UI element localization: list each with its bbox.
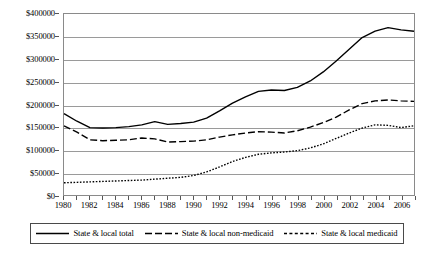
x-tick-label: 1998 [289,201,306,210]
x-tick-label: 2004 [368,201,385,210]
series-line-solid [64,28,414,128]
y-tick-mark [55,59,59,60]
chart-legend: State & local totalState & local non-med… [30,223,404,244]
y-tick-mark [55,36,59,37]
x-tick-label: 1988 [159,201,176,210]
legend-entry: State & local total [36,229,133,238]
y-tick-mark [55,13,59,14]
x-tick-label: 2000 [315,201,332,210]
dotted-line-swatch [284,229,317,238]
plot-area [63,13,415,196]
x-tick-label: 1994 [237,201,254,210]
x-tick-mark [311,196,312,200]
legend-label: State & local non-medicaid [182,229,274,238]
y-tick-mark [55,127,59,128]
y-tick-mark [55,105,59,106]
x-tick-label: 2006 [394,201,411,210]
y-tick-mark [55,150,59,151]
x-tick-mark [232,196,233,200]
y-tick-label: $0 [47,192,55,201]
x-tick-mark [285,196,286,200]
x-tick-mark [154,196,155,200]
x-axis: 1980198219841986198819901992199419961998… [63,201,415,215]
x-tick-label: 1980 [55,201,72,210]
y-tick-label: $350000 [26,32,55,41]
y-tick-label: $400000 [26,9,55,18]
y-tick-label: $200000 [26,100,55,109]
x-tick-label: 1984 [107,201,124,210]
y-tick-label: $250000 [26,77,55,86]
x-tick-label: 1996 [263,201,280,210]
legend-entry: State & local medicaid [284,229,397,238]
legend-label: State & local medicaid [321,229,397,238]
x-tick-label: 1990 [185,201,202,210]
dashed-line-swatch [145,229,178,238]
y-tick-label: $300000 [26,55,55,64]
legend-label: State & local total [73,229,133,238]
legend-entry: State & local non-medicaid [145,229,274,238]
x-tick-mark [180,196,181,200]
solid-line-swatch [36,229,69,238]
y-tick-label: $50000 [30,169,55,178]
x-tick-mark [102,196,103,200]
y-tick-mark [55,173,59,174]
x-tick-label: 1982 [81,201,98,210]
y-tick-mark [55,82,59,83]
x-tick-mark [337,196,338,200]
x-tick-mark [389,196,390,200]
x-tick-label: 1992 [211,201,228,210]
x-tick-mark [206,196,207,200]
series-line-dashed [64,100,414,142]
y-axis: $0$50000$100000$150000$200000$250000$300… [0,13,59,196]
x-tick-label: 1986 [133,201,150,210]
x-tick-mark [76,196,77,200]
x-tick-mark [128,196,129,200]
y-tick-label: $100000 [26,146,55,155]
x-tick-mark [259,196,260,200]
chart-container: $0$50000$100000$150000$200000$250000$300… [0,0,429,253]
series-layer [64,14,414,195]
x-tick-label: 2002 [342,201,359,210]
y-tick-mark [55,196,59,197]
x-tick-mark [415,196,416,200]
x-tick-mark [363,196,364,200]
y-tick-label: $150000 [26,123,55,132]
